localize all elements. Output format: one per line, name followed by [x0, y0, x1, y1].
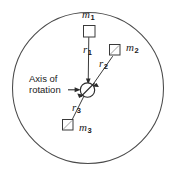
radius-label-r2: r2	[99, 58, 108, 71]
radius-label-r3: r3	[72, 102, 81, 115]
radius-label-r1: r1	[83, 44, 92, 57]
axis-pointer-arrowhead	[75, 87, 81, 92]
mass-label-m1: m1	[82, 9, 95, 22]
diagram-canvas	[0, 0, 173, 174]
axis-label-line-2: rotation	[29, 85, 61, 96]
mass-label-m2: m2	[126, 42, 139, 55]
axis-label-line-1: Axis of	[29, 74, 61, 85]
axis-of-rotation-label: Axis of rotation	[29, 74, 61, 95]
mass-label-m3: m3	[79, 122, 92, 135]
rotation-diagram-figure: m1 r1 m2 r2 m3 r3 Axis of rotation	[0, 0, 173, 174]
mass-square-m1	[84, 26, 96, 38]
